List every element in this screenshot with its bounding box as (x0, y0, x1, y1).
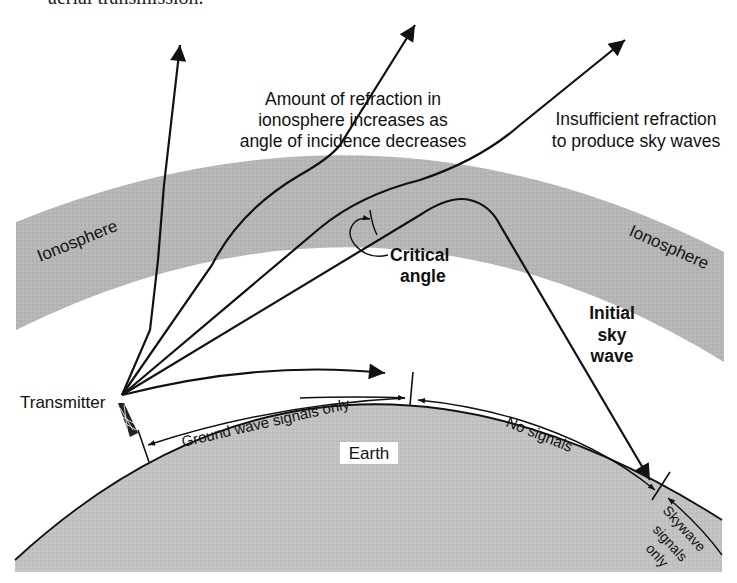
svg-text:Critical: Critical (390, 245, 449, 265)
sky-wave-propagation-diagram: Amount of refraction in ionosphere incre… (0, 0, 737, 583)
svg-text:Initial: Initial (589, 303, 635, 323)
svg-text:angle of incidence decreases: angle of incidence decreases (240, 131, 467, 151)
ground-wave-ray (122, 369, 385, 395)
ground-wave-span-arrow-right (300, 397, 405, 398)
refraction-note: Amount of refraction in ionosphere incre… (240, 89, 467, 151)
svg-text:Insufficient refraction: Insufficient refraction (555, 109, 716, 129)
divider-ground-nosignal (410, 372, 413, 405)
svg-text:Amount of refraction in: Amount of refraction in (265, 89, 441, 109)
initial-sky-wave-label: Initial sky wave (589, 303, 635, 366)
earth-body (15, 404, 722, 572)
svg-text:Earth: Earth (349, 444, 390, 463)
svg-text:to produce sky waves: to produce sky waves (552, 131, 721, 151)
svg-text:sky: sky (597, 325, 626, 345)
svg-text:angle: angle (400, 266, 446, 286)
transmitter-tower-icon (118, 403, 138, 437)
svg-text:wave: wave (590, 346, 634, 366)
earth-label: Earth (340, 442, 398, 464)
critical-angle-label: Critical angle (390, 245, 449, 286)
insufficient-refraction-note: Insufficient refraction to produce sky w… (552, 109, 721, 151)
transmitter-label: Transmitter (20, 393, 106, 412)
svg-text:ionosphere increases as: ionosphere increases as (258, 110, 448, 130)
divider-transmitter (138, 430, 149, 462)
